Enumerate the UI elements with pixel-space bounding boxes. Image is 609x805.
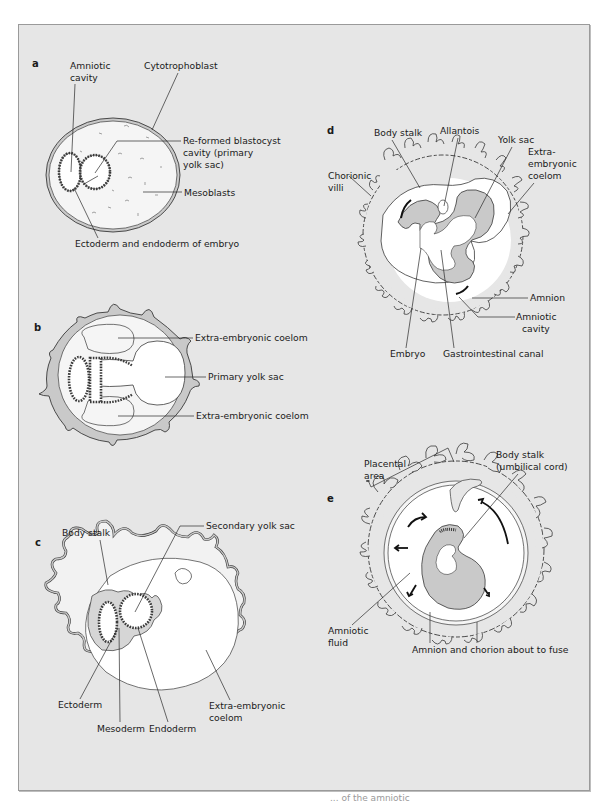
panel-b: b Extra-embryonic coelom Primary yolk sa… xyxy=(34,304,309,445)
label-gi-canal: Gastrointestinal canal xyxy=(443,348,544,359)
panel-e: e xyxy=(327,443,569,655)
label-reformed-blastocyst-cavity-2: cavity (primary xyxy=(183,147,254,158)
figure-caption-fragment: ... of the amniotic xyxy=(330,793,410,803)
label-coelom-c: Extra-embryonic xyxy=(209,700,285,711)
label-ectoderm: Ectoderm xyxy=(58,699,102,710)
label-chorionic-villi: Chorionic xyxy=(328,170,371,181)
panel-letter-e: e xyxy=(327,493,334,504)
coelom-top xyxy=(82,324,134,353)
amniotic-sac-c xyxy=(99,602,117,642)
allantois-d xyxy=(438,200,448,214)
label-reformed-blastocyst-cavity: Re-formed blastocyst xyxy=(183,135,281,146)
label-ectoderm-endoderm: Ectoderm and endoderm of embryo xyxy=(75,238,240,249)
label-amniotic-fluid: Amniotic xyxy=(328,625,368,636)
label-coelom-d-3: coelom xyxy=(528,170,561,181)
label-body-stalk-e-2: (umbilical cord) xyxy=(496,461,568,472)
label-body-stalk-c: Body stalk xyxy=(62,527,111,538)
label-coelom-bottom: Extra-embryonic coelom xyxy=(196,410,309,421)
label-secondary-yolk-sac: Secondary yolk sac xyxy=(206,520,295,531)
secondary-yolk-sac-c xyxy=(120,594,152,628)
label-amniotic-cavity-d-2: cavity xyxy=(522,323,550,334)
label-amniotic-cavity-d: Amniotic xyxy=(516,311,556,322)
label-amniotic-cavity: Amniotic xyxy=(70,60,110,71)
panel-d: d xyxy=(327,125,577,359)
panel-c: c Body stalk Secondary yolk sac Ectoderm… xyxy=(35,520,295,734)
label-coelom-top: Extra-embryonic coelom xyxy=(195,332,308,343)
panel-a: a Amniotic cavity Cytotrophoblast Re-for… xyxy=(32,58,281,249)
label-body-stalk-e: Body stalk xyxy=(496,449,545,460)
label-embryo-d: Embryo xyxy=(390,348,426,359)
label-primary-yolk-sac: Primary yolk sac xyxy=(208,371,284,382)
panel-letter-d: d xyxy=(327,125,334,136)
label-reformed-blastocyst-cavity-3: yolk sac) xyxy=(183,159,224,170)
label-chorionic-villi-2: villi xyxy=(328,182,344,193)
label-body-stalk-d: Body stalk xyxy=(374,127,423,138)
label-endoderm: Endoderm xyxy=(149,723,196,734)
label-cytotrophoblast: Cytotrophoblast xyxy=(144,60,218,71)
label-amnion-chorion-fuse: Amnion and chorion about to fuse xyxy=(412,644,569,655)
label-coelom-d-2: embryonic xyxy=(528,158,577,169)
label-placental-area: Placental xyxy=(364,458,406,469)
label-mesoderm: Mesoderm xyxy=(97,723,145,734)
label-yolk-sac-d: Yolk sac xyxy=(497,134,534,145)
label-amniotic-fluid-2: fluid xyxy=(328,637,348,648)
panel-letter-c: c xyxy=(35,537,41,548)
label-allantois: Allantois xyxy=(440,125,480,136)
label-amniotic-cavity-2: cavity xyxy=(70,72,98,83)
label-amnion-d: Amnion xyxy=(530,292,565,303)
label-coelom-c-2: coelom xyxy=(209,712,242,723)
coelom-bottom xyxy=(82,397,134,426)
panel-letter-b: b xyxy=(34,322,41,333)
panel-letter-a: a xyxy=(32,58,39,69)
label-coelom-d: Extra- xyxy=(528,146,556,157)
embryo-development-diagram: a Amniotic cavity Cytotrophoblast Re-for… xyxy=(0,0,609,805)
label-placental-area-2: area xyxy=(364,470,385,481)
label-mesoblasts: Mesoblasts xyxy=(184,187,235,198)
